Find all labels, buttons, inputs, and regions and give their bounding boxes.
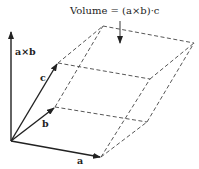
parallelepiped-edges	[55, 26, 194, 157]
label-axb: a×b	[15, 46, 36, 57]
label-b: b	[42, 118, 49, 129]
label-a: a	[77, 155, 83, 166]
label-c: c	[40, 72, 46, 83]
vector-c	[11, 64, 57, 141]
vector-a	[11, 141, 100, 157]
title-label: Volume = (a×b)·c	[69, 5, 160, 16]
parallelepiped-diagram: Volume = (a×b)·c a×b c b a	[0, 0, 199, 169]
